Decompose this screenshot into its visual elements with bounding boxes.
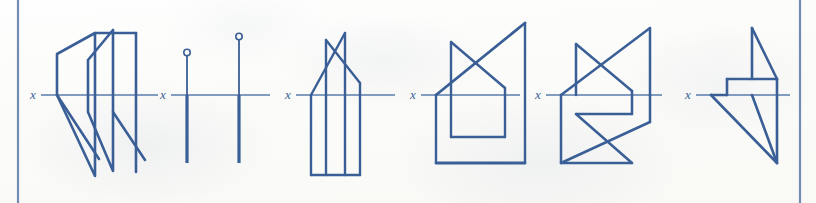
figure-6-axis-label: x [684,87,691,102]
figure-6-lower-diagonal-inner [752,95,777,163]
figure-1-lower-wing-right [113,112,145,160]
figure-1: x [29,30,158,176]
figure-1-axis-label: x [29,87,36,102]
drawing-page: x x x [0,0,816,203]
figure-6-upper-diagonal [752,28,777,79]
figure-3-diagonal-a [326,40,360,83]
figure-5-upper-diagonal-short [576,44,632,91]
figure-2-axis-label: x [159,87,166,102]
figure-5-upper-diagonal-long [561,28,650,95]
figure-5-lower-diagonal-long [561,122,650,163]
figure-1-lower-wing-left [57,95,99,159]
figure-4-long-diagonal [436,23,525,95]
figure-4-axis-label: x [409,87,416,102]
figure-canvas: x x x [0,0,816,203]
figure-4: x [409,23,525,163]
figure-3: x [284,33,395,175]
figure-6: x [684,28,790,163]
figure-3-axis-label: x [284,87,291,102]
figure-2: x [159,33,270,163]
figure-5-lower-diagonal-short [576,114,632,163]
figure-5-axis-label: x [534,87,541,102]
figure-5: x [534,28,662,163]
figure-6-lower-diagonal-long [711,95,777,163]
figure-2-right-endpoint-circle [236,33,242,39]
figure-2-left-endpoint-circle [184,49,190,55]
figure-4-short-diagonal [451,42,505,88]
